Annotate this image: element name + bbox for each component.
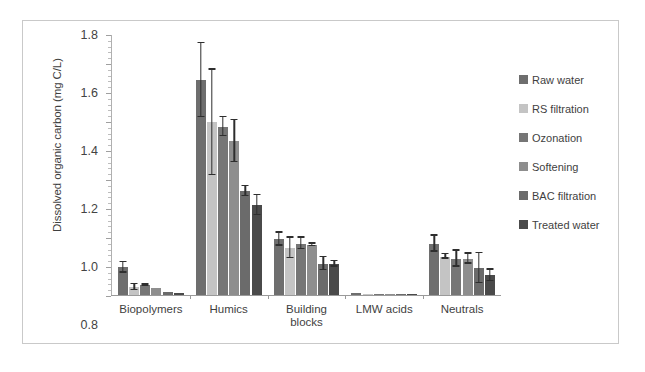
bar[interactable] <box>274 239 284 295</box>
y-tick-minor <box>108 145 111 146</box>
error-cap-top <box>475 252 482 253</box>
bar[interactable] <box>363 294 373 295</box>
y-tick-minor <box>108 279 111 280</box>
bar[interactable] <box>374 294 384 295</box>
y-tick: 0.4 <box>106 238 111 239</box>
bar[interactable] <box>151 288 161 295</box>
x-axis-label-line: Biopolymers <box>112 303 190 316</box>
error-bar <box>289 238 290 258</box>
legend-item[interactable]: RS filtration <box>519 94 615 123</box>
bar-slot <box>274 35 284 295</box>
x-axis-label: Buildingblocks <box>268 303 346 329</box>
bar[interactable] <box>174 293 184 295</box>
bar-group <box>268 35 346 295</box>
y-tick-label: 1.8 <box>81 28 98 42</box>
bar[interactable] <box>440 257 450 295</box>
x-axis-labels: BiopolymersHumicsBuildingblocksLMW acids… <box>112 303 501 329</box>
error-cap-top <box>297 236 304 237</box>
bar-slot <box>129 35 139 295</box>
x-axis-label: LMW acids <box>345 303 423 329</box>
bar[interactable] <box>296 244 306 295</box>
error-bar <box>222 117 223 136</box>
y-tick-minor <box>108 244 111 245</box>
bar-slot <box>163 35 173 295</box>
y-tick: 0.6 <box>106 209 111 210</box>
x-axis-label: Neutrals <box>423 303 501 329</box>
y-tick-minor <box>108 273 111 274</box>
bar[interactable] <box>140 285 150 295</box>
bar-slot <box>451 35 461 295</box>
x-group-separator-tick <box>423 295 424 299</box>
legend-item[interactable]: Softening <box>519 152 615 181</box>
error-bar <box>211 70 212 176</box>
y-tick: 1.6 <box>106 64 111 65</box>
bar-groups <box>112 35 501 295</box>
bar[interactable] <box>163 292 173 295</box>
error-cap-top <box>253 194 260 195</box>
y-axis-title: Dissolved organic carbon (mg C/L) <box>51 25 63 265</box>
error-bar <box>256 195 257 215</box>
x-axis-line <box>111 295 501 296</box>
error-cap-top <box>220 116 227 117</box>
error-cap-top <box>119 261 126 262</box>
bar-slot <box>140 35 150 295</box>
x-axis-label-line: LMW acids <box>345 303 423 316</box>
bar[interactable] <box>252 205 262 295</box>
bar-slot <box>351 35 361 295</box>
bar[interactable] <box>385 294 395 295</box>
chart-legend: Raw waterRS filtrationOzonationSoftening… <box>519 65 615 239</box>
y-tick: 0.2 <box>106 267 111 268</box>
bar-slot <box>307 35 317 295</box>
y-tick: 1.4 <box>106 93 111 94</box>
y-tick-minor <box>108 174 111 175</box>
legend-item[interactable]: Treated water <box>519 210 615 239</box>
bar[interactable] <box>407 294 417 295</box>
y-tick-minor <box>108 41 111 42</box>
y-tick-minor <box>108 105 111 106</box>
bar[interactable] <box>229 141 239 295</box>
error-cap-bottom <box>242 195 249 196</box>
y-tick-minor <box>108 290 111 291</box>
y-tick: 1.2 <box>106 122 111 123</box>
legend-label: BAC filtration <box>532 190 596 202</box>
bar[interactable] <box>351 293 361 295</box>
error-cap-top <box>431 234 438 235</box>
bar-slot <box>207 35 217 295</box>
error-cap-bottom <box>286 257 293 258</box>
bar[interactable] <box>307 245 317 295</box>
bar[interactable] <box>463 259 473 295</box>
error-cap-bottom <box>487 280 494 281</box>
legend-swatch-icon <box>519 133 528 142</box>
bar-slot <box>196 35 206 295</box>
bar-slot <box>252 35 262 295</box>
legend-item[interactable]: BAC filtration <box>519 181 615 210</box>
error-cap-bottom <box>119 271 126 272</box>
bar-group <box>423 35 501 295</box>
bar-slot <box>440 35 450 295</box>
error-cap-bottom <box>475 282 482 283</box>
bar-slot <box>296 35 306 295</box>
bar[interactable] <box>218 127 228 295</box>
bar[interactable] <box>396 294 406 295</box>
y-tick-minor <box>108 226 111 227</box>
bar-slot <box>174 35 184 295</box>
legend-item[interactable]: Raw water <box>519 65 615 94</box>
error-cap-bottom <box>208 174 215 175</box>
y-tick-minor <box>108 261 111 262</box>
error-cap-top <box>286 236 293 237</box>
bar[interactable] <box>329 264 339 295</box>
error-cap-bottom <box>231 161 238 162</box>
error-cap-bottom <box>453 265 460 266</box>
error-cap-top <box>275 231 282 232</box>
error-cap-bottom <box>431 250 438 251</box>
bar-slot <box>474 35 484 295</box>
y-tick-minor <box>108 168 111 169</box>
y-tick-label: 1.6 <box>81 86 98 100</box>
error-cap-bottom <box>331 265 338 266</box>
y-tick-minor <box>108 215 111 216</box>
legend-item[interactable]: Ozonation <box>519 123 615 152</box>
bar[interactable] <box>240 191 250 295</box>
error-bar <box>456 251 457 267</box>
x-axis-label: Humics <box>190 303 268 329</box>
bar-slot <box>396 35 406 295</box>
